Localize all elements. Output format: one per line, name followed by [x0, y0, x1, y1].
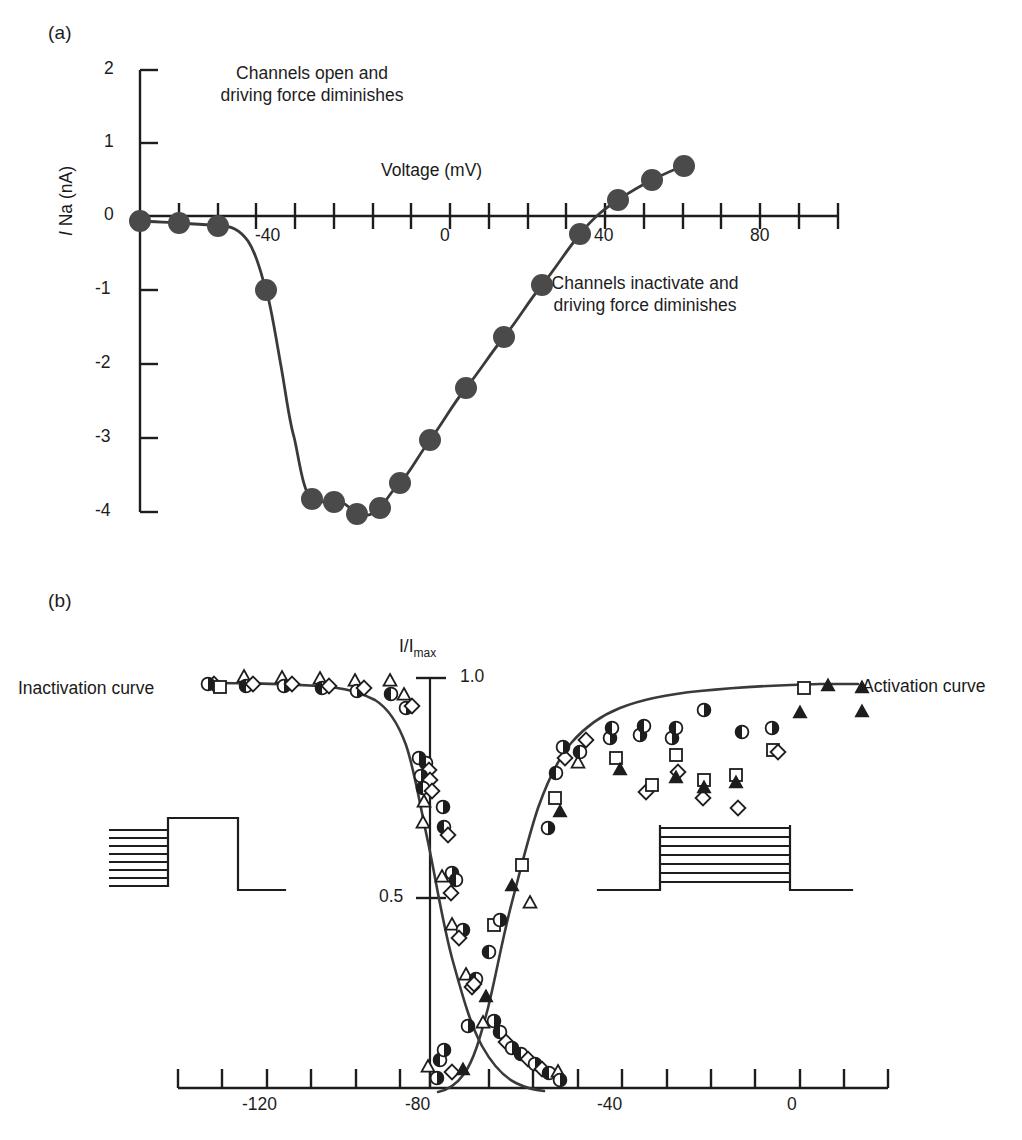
panel-a-axes — [140, 70, 838, 512]
panel-a-xtick-80: 80 — [750, 225, 769, 246]
panel-b-plot — [0, 580, 1022, 1140]
panel-a-xtick-m40: -40 — [255, 225, 280, 246]
panel-b-ytick-1: 1.0 — [460, 666, 484, 687]
panel-a-plot — [0, 0, 1022, 560]
panel-b-xtick-m120: -120 — [242, 1094, 277, 1115]
panel-a-ytick-2: 2 — [104, 58, 114, 79]
panel-a-xtick-0: 0 — [440, 225, 450, 246]
panel-a-ytick-m4: -4 — [95, 500, 111, 521]
inset-inactivation-protocol — [110, 818, 285, 890]
panel-a-xtick-40: 40 — [594, 225, 613, 246]
panel-a-ytick-m3: -3 — [95, 426, 111, 447]
inset-activation-protocol — [598, 826, 852, 890]
panel-b-ytick-05: 0.5 — [379, 886, 403, 907]
panel-a-ytick-m2: -2 — [95, 352, 111, 373]
figure-root: (a) Channels open and driving force dimi… — [0, 0, 1022, 1140]
panel-a-ytick-m1: -1 — [95, 278, 111, 299]
panel-b-xtick-0: 0 — [787, 1094, 797, 1115]
panel-a-ytick-1: 1 — [104, 131, 114, 152]
panel-b-xtick-m80: -80 — [405, 1094, 430, 1115]
panel-b-x-ticks — [178, 1069, 888, 1088]
panel-b-xtick-m40: -40 — [597, 1094, 622, 1115]
panel-a-ytick-0: 0 — [104, 204, 114, 225]
